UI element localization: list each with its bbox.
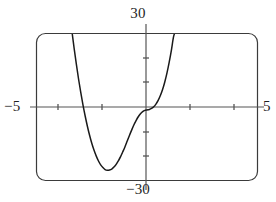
x-min-label: −5 [4,99,20,114]
y-max-label: 30 [0,6,276,21]
graph-figure: 30 −30 −5 5 [0,0,276,202]
plot-canvas [0,0,276,202]
y-min-label: −30 [0,182,276,197]
x-max-label: 5 [263,99,271,114]
